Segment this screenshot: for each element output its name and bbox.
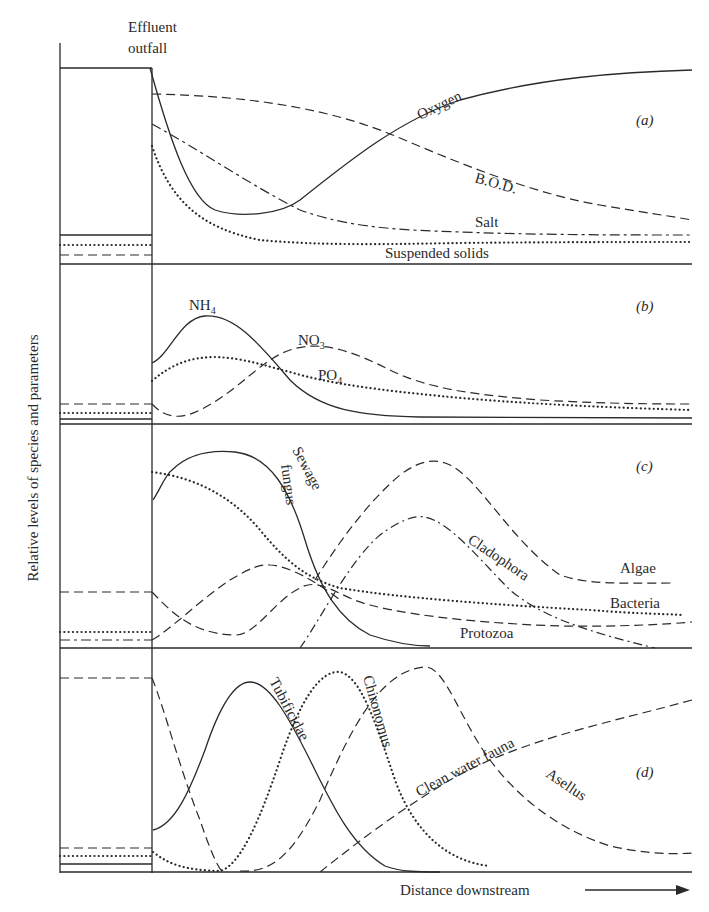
label-nh4: NH4 xyxy=(189,297,216,316)
po4-curve xyxy=(152,357,692,410)
label-asellus: Asellus xyxy=(543,765,589,804)
label-bod: B.O.D. xyxy=(473,170,519,197)
no3-curve xyxy=(152,346,692,416)
arrowhead-icon xyxy=(676,885,690,895)
salt-curve xyxy=(152,124,692,235)
label-algae: Algae xyxy=(620,560,656,576)
label-no3: NO3 xyxy=(298,332,325,351)
panel-tag-b: (b) xyxy=(636,298,654,315)
panel-a: Oxygen B.O.D. Salt Suspended solids (a) xyxy=(60,68,692,261)
river-pollution-profile-figure: Effluent outfall Relative levels of spec… xyxy=(0,0,709,912)
x-axis-label: Distance downstream xyxy=(400,882,530,898)
label-suspended-solids: Suspended solids xyxy=(385,245,489,261)
label-po4: PO4 xyxy=(318,367,342,386)
axes-frame xyxy=(60,43,692,873)
panel-tag-c: (c) xyxy=(636,458,653,475)
outfall-label-line2: outfall xyxy=(128,40,167,56)
label-sewage-fungus-2: fungus xyxy=(278,463,300,506)
bacteria-curve xyxy=(152,472,682,615)
oxygen-curve xyxy=(150,68,692,214)
label-protozoa: Protozoa xyxy=(460,625,514,641)
panel-c: Sewage fungus Cladophora Algae Bacteria … xyxy=(60,444,692,648)
label-bacteria: Bacteria xyxy=(610,595,660,611)
protozoa-upstream-rise xyxy=(152,565,340,640)
outfall-label-line1: Effluent xyxy=(128,19,178,35)
algae-curve xyxy=(315,461,672,583)
label-clean-water-fauna: Clean water fauna xyxy=(413,734,517,800)
panel-d: Tubificidae Chironomus Clean water fauna… xyxy=(60,667,692,872)
label-salt: Salt xyxy=(475,214,499,230)
panel-tag-a: (a) xyxy=(636,112,654,129)
suspended-solids-curve xyxy=(152,146,692,244)
panel-tag-d: (d) xyxy=(636,764,654,781)
y-axis-label: Relative levels of species and parameter… xyxy=(25,334,41,581)
upstream-fauna-drop-curve xyxy=(152,678,222,871)
label-oxygen: Oxygen xyxy=(414,87,464,122)
label-cladophora: Cladophora xyxy=(465,531,532,584)
panel-b: NH4 NO3 PO4 (b) xyxy=(60,297,692,419)
x-axis-label-group: Distance downstream xyxy=(400,882,690,898)
